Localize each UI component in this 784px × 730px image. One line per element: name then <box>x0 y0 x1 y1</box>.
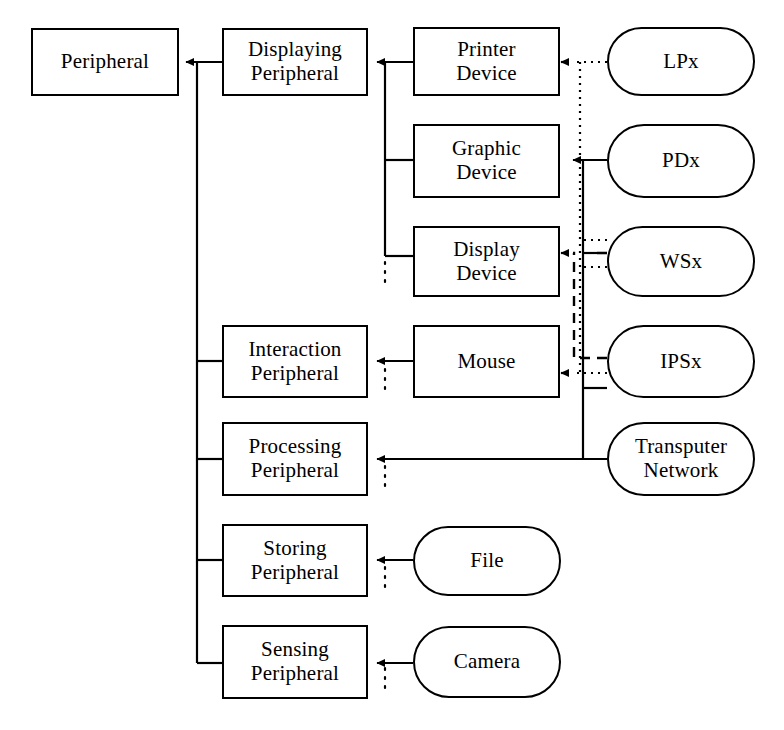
node-graphic-device[interactable]: Graphic Device <box>413 124 560 198</box>
node-lpx-label: LPx <box>659 50 703 74</box>
node-mouse-label: Mouse <box>453 350 519 374</box>
node-graphic-device-label: Graphic Device <box>448 137 525 184</box>
node-interaction-peripheral-label: Interaction Peripheral <box>244 338 345 385</box>
node-peripheral[interactable]: Peripheral <box>31 28 179 96</box>
node-pdx-label: PDx <box>658 149 704 173</box>
node-processing-peripheral[interactable]: Processing Peripheral <box>222 422 368 496</box>
node-wsx[interactable]: WSx <box>607 226 755 297</box>
node-camera-label: Camera <box>450 650 525 674</box>
node-file-label: File <box>466 549 507 573</box>
node-display-device-label: Display Device <box>449 238 524 285</box>
node-file[interactable]: File <box>413 526 561 596</box>
node-transputer-network[interactable]: Transputer Network <box>607 422 755 496</box>
node-displaying-peripheral-label: Displaying Peripheral <box>244 38 346 85</box>
node-transputer-network-label: Transputer Network <box>631 435 731 482</box>
node-lpx[interactable]: LPx <box>607 27 755 96</box>
node-mouse[interactable]: Mouse <box>413 325 560 398</box>
node-displaying-peripheral[interactable]: Displaying Peripheral <box>222 28 368 96</box>
node-ipsx-label: IPSx <box>656 350 706 374</box>
node-interaction-peripheral[interactable]: Interaction Peripheral <box>222 325 368 398</box>
node-storing-peripheral-label: Storing Peripheral <box>247 537 343 584</box>
node-wsx-label: WSx <box>656 250 707 274</box>
node-camera[interactable]: Camera <box>413 626 561 698</box>
node-printer-device-label: Printer Device <box>452 38 521 85</box>
node-sensing-peripheral[interactable]: Sensing Peripheral <box>222 625 368 699</box>
node-ipsx[interactable]: IPSx <box>607 325 755 398</box>
node-printer-device[interactable]: Printer Device <box>413 27 560 96</box>
node-pdx[interactable]: PDx <box>607 124 755 198</box>
node-storing-peripheral[interactable]: Storing Peripheral <box>222 524 368 597</box>
node-processing-peripheral-label: Processing Peripheral <box>245 435 346 482</box>
node-peripheral-label: Peripheral <box>57 50 153 74</box>
diagram-canvas: Peripheral Displaying Peripheral Printer… <box>0 0 784 730</box>
edge-ipsx-dashed-to-display <box>573 253 607 358</box>
node-display-device[interactable]: Display Device <box>413 226 560 297</box>
node-sensing-peripheral-label: Sensing Peripheral <box>247 638 343 685</box>
